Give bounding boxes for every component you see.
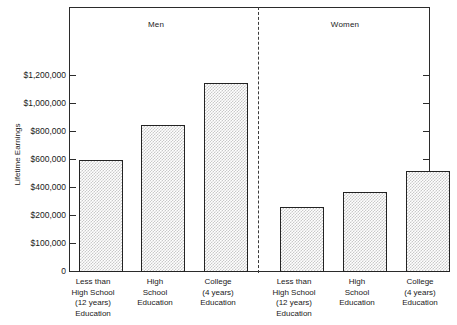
y-tick-label-800000: $800,000 [31,127,66,136]
bar-women-college [406,171,450,273]
y-tick-label-1000000: $1,000,000 [23,99,66,108]
x-category-label-women-college: College (4 years) Education [374,277,457,309]
y-tick-label-200000: $200,000 [31,211,66,220]
y-tick-mark-left-100000 [69,243,76,244]
y-tick-label-0: 0 [61,267,66,276]
y-tick-mark-left-1000000 [69,103,76,104]
y-tick-label-400000: $400,000 [31,183,66,192]
y-tick-mark-left-200000 [69,215,76,216]
cat-line-4: Education [248,309,340,320]
gender-group-divider [258,7,259,273]
bar-men-less-than-high-school [79,160,123,272]
y-tick-mark-right-1200000 [423,75,430,76]
bar-women-less-than-high-school [280,207,324,272]
cat-line-2: (4 years) [374,288,457,299]
y-tick-mark-left-1200000 [69,75,76,76]
y-tick-mark-right-600000 [423,159,430,160]
y-tick-label-1200000: $1,200,000 [23,71,66,80]
bar-women-high-school [343,192,387,273]
y-tick-label-600000: $600,000 [31,155,66,164]
cat-line-3: Education [374,298,457,309]
group-label-women: Women [305,20,385,29]
y-tick-label-100000: $100,000 [31,239,66,248]
bar-men-high-school [141,125,185,272]
lifetime-earnings-bar-chart: Lifetime Earnings Men Women $1,200,000 $… [0,0,457,325]
y-tick-mark-right-800000 [423,131,430,132]
bar-men-college [204,83,248,272]
y-tick-mark-right-1000000 [423,103,430,104]
cat-line-4: Education [47,309,139,320]
cat-line-1: College [374,277,457,288]
group-label-men: Men [116,20,196,29]
y-tick-mark-left-400000 [69,187,76,188]
y-tick-mark-left-600000 [69,159,76,160]
y-tick-mark-left-800000 [69,131,76,132]
